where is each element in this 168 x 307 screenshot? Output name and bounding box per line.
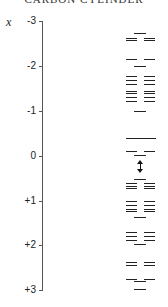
energy-level <box>126 262 137 263</box>
energy-level <box>126 151 137 152</box>
diagram-title: CARBON CYLINDER <box>0 0 168 5</box>
energy-level <box>144 265 155 266</box>
energy-level <box>126 40 137 41</box>
energy-level <box>134 244 146 245</box>
energy-level <box>144 209 155 210</box>
energy-level <box>144 262 155 263</box>
axis-tick-label: +1 <box>6 196 36 206</box>
energy-level <box>126 76 137 77</box>
energy-level <box>134 289 146 290</box>
arrow-down-icon <box>137 169 143 173</box>
energy-level <box>126 97 137 98</box>
energy-level <box>126 211 137 212</box>
energy-level <box>126 232 137 233</box>
energy-level <box>126 188 137 189</box>
energy-level <box>144 80 155 81</box>
energy-level <box>126 205 137 206</box>
axis-tick <box>39 21 43 22</box>
energy-level <box>144 188 155 189</box>
energy-level <box>144 205 155 206</box>
axis-tick-label: -1 <box>6 106 36 116</box>
energy-level <box>134 33 146 34</box>
energy-level <box>144 91 155 92</box>
energy-level <box>126 101 137 102</box>
energy-level <box>144 59 155 60</box>
energy-level <box>144 93 155 94</box>
energy-level <box>126 138 156 139</box>
energy-level <box>126 80 137 81</box>
axis-tick <box>39 201 43 202</box>
energy-level <box>126 84 137 85</box>
axis-tick <box>39 66 43 67</box>
energy-level <box>144 40 155 41</box>
energy-level <box>144 201 155 202</box>
energy-level <box>134 111 146 112</box>
energy-level <box>126 209 137 210</box>
energy-level <box>144 38 155 39</box>
axis-tick-label: 0 <box>6 151 36 161</box>
energy-level <box>134 179 146 180</box>
axis-tick <box>39 290 43 291</box>
energy-level <box>144 76 155 77</box>
energy-level <box>144 183 155 184</box>
energy-level <box>144 279 155 280</box>
axis-tick <box>39 156 43 157</box>
energy-level <box>144 240 155 241</box>
energy-level <box>144 101 155 102</box>
energy-level <box>144 186 155 187</box>
arrow-up-icon <box>137 160 143 164</box>
energy-level <box>134 66 146 67</box>
energy-level <box>134 155 146 156</box>
energy-level <box>144 84 155 85</box>
energy-level <box>134 217 146 218</box>
axis-variable-label: x <box>6 15 11 30</box>
energy-level <box>126 183 137 184</box>
energy-level <box>144 236 155 237</box>
energy-level <box>144 211 155 212</box>
axis-tick-label: -3 <box>14 16 36 26</box>
axis-tick-label: +3 <box>6 285 36 295</box>
energy-level <box>144 151 155 152</box>
energy-level <box>126 279 137 280</box>
energy-level <box>144 232 155 233</box>
axis-tick <box>39 111 43 112</box>
energy-level <box>144 97 155 98</box>
energy-level <box>126 201 137 202</box>
axis-tick <box>39 245 43 246</box>
energy-level <box>126 265 137 266</box>
energy-level <box>126 93 137 94</box>
energy-level <box>126 240 137 241</box>
energy-level <box>134 281 146 282</box>
energy-level <box>126 186 137 187</box>
energy-level <box>126 91 137 92</box>
energy-level <box>126 38 137 39</box>
energy-level <box>126 236 137 237</box>
axis-tick-label: +2 <box>6 240 36 250</box>
energy-level <box>126 59 137 60</box>
axis-tick-label: -2 <box>6 61 36 71</box>
